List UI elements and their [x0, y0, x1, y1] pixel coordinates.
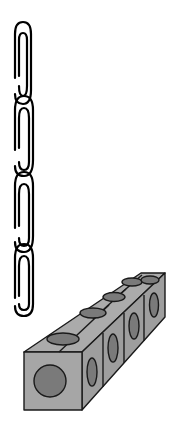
cube-dot [47, 333, 79, 345]
cube-dot [129, 313, 139, 339]
cube-dot [141, 276, 159, 284]
measurement-illustration: Illustration comparing a chain of paperc… [0, 0, 180, 444]
cube-dot [122, 278, 142, 286]
cube-train [24, 266, 165, 410]
cube-dot [34, 365, 66, 397]
cube-dot [80, 308, 106, 318]
paperclip-icon [15, 172, 33, 252]
cube-dot [103, 293, 125, 302]
cube-dot [87, 358, 97, 386]
paperclip-icon [15, 244, 33, 316]
paperclip-chain [15, 22, 33, 316]
paperclip-icon [15, 96, 33, 176]
cube-dot [108, 334, 118, 362]
paperclip-icon [15, 22, 31, 104]
cube-dot [150, 293, 159, 317]
